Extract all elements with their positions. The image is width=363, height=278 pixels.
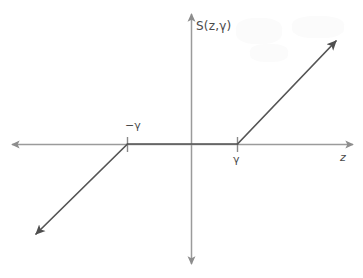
tick-label-gamma: γ	[233, 154, 240, 165]
soft-threshold-figure: S(z,γ) −γ γ z	[0, 0, 363, 278]
x-axis-label: z	[340, 152, 346, 163]
curve-right-ray	[238, 41, 337, 144]
y-axis-label: S(z,γ)	[196, 20, 231, 32]
plot-canvas	[0, 0, 363, 278]
tick-label-negative-gamma: −γ	[125, 120, 141, 131]
curve-left-ray	[36, 144, 128, 234]
